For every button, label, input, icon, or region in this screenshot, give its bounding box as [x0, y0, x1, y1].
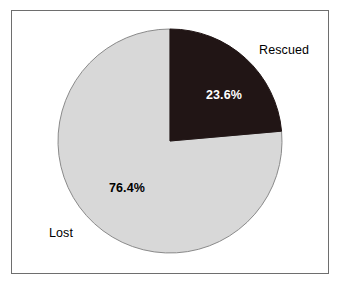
slice-category-label-rescued: Rescued — [259, 43, 309, 57]
slice-category-label-lost: Lost — [49, 226, 73, 240]
pie-chart-figure: 23.6% Rescued 76.4% Lost — [0, 0, 341, 286]
slice-value-label-rescued: 23.6% — [206, 88, 242, 102]
slice-value-label-lost: 76.4% — [109, 181, 145, 195]
pie-chart-canvas: 23.6% Rescued 76.4% Lost — [0, 0, 341, 286]
